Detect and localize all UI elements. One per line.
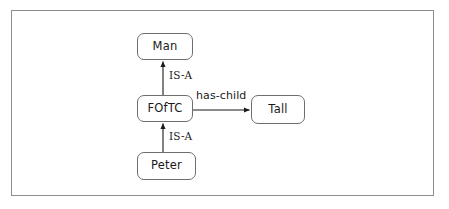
node-man[interactable]: Man [137,33,193,60]
edge-label-peter-foftc: IS-A [169,131,192,142]
node-tall-label: Tall [268,104,287,116]
node-man-label: Man [153,41,178,53]
node-peter[interactable]: Peter [137,152,196,180]
node-peter-label: Peter [151,160,182,172]
node-foftc[interactable]: FOfTC [137,95,193,122]
node-foftc-label: FOfTC [147,103,182,115]
edge-label-foftc-man: IS-A [169,70,192,81]
diagram-canvas: Man FOfTC Tall Peter IS-A IS-A has-child [0,0,449,209]
edge-label-foftc-tall: has-child [196,90,246,101]
node-tall[interactable]: Tall [251,95,305,124]
diagram-frame [11,10,434,196]
